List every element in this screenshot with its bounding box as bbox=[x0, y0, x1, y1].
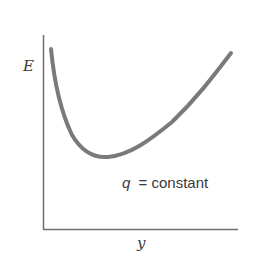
x-axis-label: y bbox=[136, 234, 146, 252]
energy-curve bbox=[51, 49, 231, 157]
energy-depth-diagram: E y q = constant bbox=[0, 0, 254, 260]
y-axis-label: E bbox=[22, 57, 34, 75]
constant-annotation: q = constant bbox=[122, 174, 209, 191]
annotation-text: = constant bbox=[139, 174, 209, 191]
annotation-variable: q bbox=[122, 174, 131, 191]
